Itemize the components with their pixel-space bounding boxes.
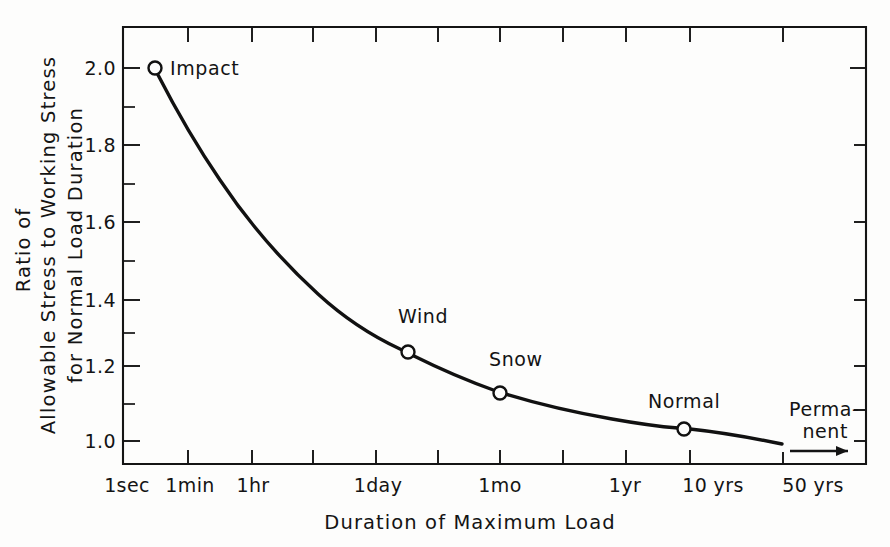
x-tick-label-1hr: 1hr: [236, 474, 269, 496]
y-tick-label-2-0: 2.0: [85, 57, 116, 79]
x-axis-title: Duration of Maximum Load: [324, 511, 615, 534]
load-duration-chart: 2.0 1.8 1.6 1.4 1.2 1.0 1sec 1min 1hr 1d…: [0, 0, 890, 547]
y-axis-title-stress-line: Allowable Stress to Working Stress: [37, 56, 60, 434]
marker-impact[interactable]: [149, 62, 162, 75]
y-axis-title-line1: Ratio of: [12, 208, 35, 293]
plot-frame: [123, 27, 866, 464]
data-point-labels: Impact Wind Snow Normal: [170, 57, 720, 412]
y-tick-label-1-0: 1.0: [85, 430, 116, 452]
y-axis-title: Ratio of: [12, 208, 35, 293]
chart-figure: 2.0 1.8 1.6 1.4 1.2 1.0 1sec 1min 1hr 1d…: [0, 0, 890, 547]
y-tick-label-1-2: 1.2: [85, 355, 116, 377]
x-tick-label-10yrs: 10 yrs: [682, 474, 744, 496]
x-tick-label-1mo: 1mo: [478, 474, 521, 496]
permanent-annotation: Perma- nent: [789, 398, 860, 456]
x-axis-ticks: [188, 450, 783, 464]
y-axis-title-duration-line: for Normal Load Duration: [64, 107, 87, 383]
x-axis-tick-labels: 1sec 1min 1hr 1day 1mo 1yr 10 yrs 50 yrs: [104, 474, 844, 496]
permanent-right-arrow-icon: [790, 446, 848, 456]
data-point-markers: [149, 62, 691, 436]
marker-wind[interactable]: [402, 346, 415, 359]
x-tick-label-1day: 1day: [354, 474, 403, 496]
marker-normal[interactable]: [678, 423, 691, 436]
y-axis-minor-ticks: [123, 107, 135, 404]
marker-snow[interactable]: [494, 387, 507, 400]
x-tick-label-50yrs: 50 yrs: [782, 474, 844, 496]
point-label-snow: Snow: [489, 348, 543, 370]
top-axis-ticks: [188, 27, 783, 42]
point-label-normal: Normal: [648, 390, 720, 412]
load-duration-curve: [157, 73, 782, 444]
arrow-head: [836, 446, 848, 456]
permanent-label-line1: Perma-: [789, 398, 860, 420]
y-tick-label-1-4: 1.4: [85, 289, 116, 311]
right-axis-ticks: [850, 68, 866, 441]
y-axis-major-ticks: [123, 68, 140, 441]
y-tick-label-1-6: 1.6: [85, 211, 116, 233]
x-tick-label-1sec: 1sec: [104, 474, 150, 496]
point-label-wind: Wind: [398, 305, 448, 327]
x-tick-label-1yr: 1yr: [609, 474, 641, 496]
y-axis-title-group: Allowable Stress to Working Stress for N…: [37, 56, 87, 434]
point-label-impact: Impact: [170, 57, 239, 79]
y-axis-tick-labels: 2.0 1.8 1.6 1.4 1.2 1.0: [85, 57, 116, 452]
y-tick-label-1-8: 1.8: [85, 134, 116, 156]
permanent-label-line2: nent: [802, 420, 848, 442]
x-tick-label-1min: 1min: [165, 474, 215, 496]
